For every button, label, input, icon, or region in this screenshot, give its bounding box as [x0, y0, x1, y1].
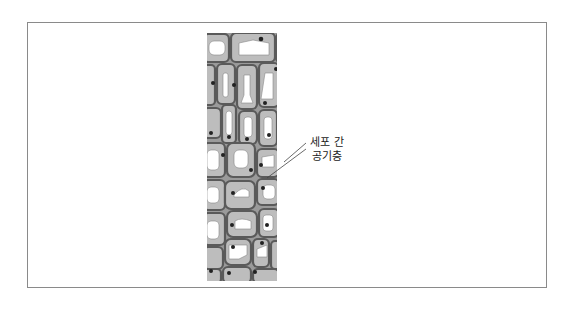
- label-line-2: 공기층: [305, 150, 349, 164]
- diagram-frame: [27, 22, 547, 288]
- plant-cells-illustration: [207, 33, 277, 281]
- label-line-1: 세포 간: [305, 136, 349, 150]
- intercellular-air-space-label: 세포 간 공기층: [305, 136, 349, 164]
